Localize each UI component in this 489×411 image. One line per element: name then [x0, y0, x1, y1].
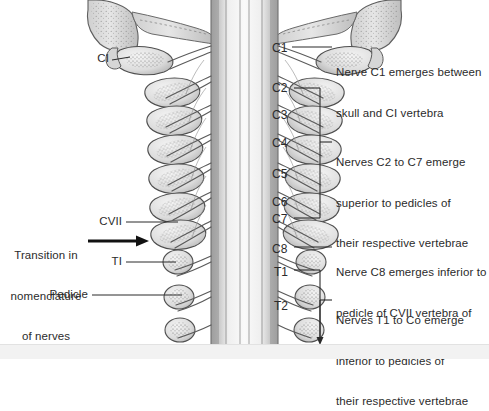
- spinal-cord-column: [211, 0, 278, 344]
- vertebra-label-c8: C8: [272, 243, 287, 256]
- vertebra-label-c5: C5: [272, 168, 287, 181]
- left-vertebrae-column: [106, 47, 206, 342]
- left-body-t2-stipple: [169, 289, 189, 305]
- left-atlas-stipple: [126, 52, 164, 68]
- left-skull-base-plate: [132, 12, 214, 44]
- label-ti: TI: [86, 255, 122, 269]
- footer-divider-strip: [0, 344, 489, 359]
- right-body-t3-stipple: [299, 322, 319, 338]
- transition-line-2: nomenclature: [6, 290, 86, 304]
- transition-nomenclature-note: Transition in nomenclature of nerves: [6, 222, 86, 357]
- vertebra-label-c3: C3: [272, 109, 287, 122]
- vertebra-label-c6: C6: [272, 196, 287, 209]
- right-body-t2-stipple: [300, 289, 320, 305]
- label-ci: CI: [77, 52, 109, 66]
- annotation-nerves-t1-co-line-3: their respective vertebrae: [336, 395, 488, 409]
- vertebra-label-t1: T1: [274, 266, 288, 279]
- annotation-nerve-c1: Nerve C1 emerges between skull and CI ve…: [336, 39, 486, 134]
- vertebra-label-c1: C1: [272, 42, 287, 55]
- vertebra-label-t2: T2: [274, 300, 288, 313]
- vertebra-label-c2: C2: [272, 82, 287, 95]
- annotation-nerves-t1-co-line-1: Nerves T1 to Co emerge: [336, 314, 488, 328]
- vertebra-label-c7: C7: [272, 213, 287, 226]
- right-body-t1-stipple: [301, 254, 321, 270]
- left-body-t3-stipple: [170, 322, 190, 338]
- annotation-nerve-c1-line-2: skull and CI vertebra: [336, 107, 486, 121]
- transition-line-3: of nerves: [6, 330, 86, 344]
- annotation-nerve-c1-line-1: Nerve C1 emerges between: [336, 66, 486, 80]
- transition-line-1: Transition in: [6, 249, 86, 263]
- annotation-nerves-c2-c7-line-2: superior to pedicles of: [336, 197, 486, 211]
- annotation-nerves-c2-c7-line-1: Nerves C2 to C7 emerge: [336, 156, 486, 170]
- vertebra-label-c4: C4: [272, 137, 287, 150]
- annotation-nerve-c8-line-1: Nerve C8 emerges inferior to: [336, 266, 488, 280]
